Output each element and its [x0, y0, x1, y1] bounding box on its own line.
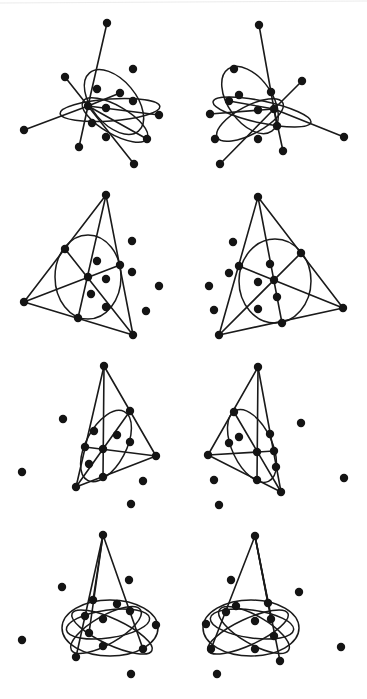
point-node [215, 331, 223, 339]
point-node [227, 576, 235, 584]
point-node [278, 319, 286, 327]
point-node [139, 477, 147, 485]
point-node [340, 133, 348, 141]
point-node [229, 238, 237, 246]
point-node [126, 407, 134, 415]
edge-line [274, 81, 302, 109]
point-node [102, 275, 110, 283]
point-node [216, 160, 224, 168]
point-node [87, 290, 95, 298]
point-node [100, 362, 108, 370]
point-node [270, 105, 278, 113]
point-node [142, 307, 150, 315]
point-node [251, 617, 259, 625]
point-node [81, 443, 89, 451]
panel-row3-left [18, 362, 160, 508]
point-node [155, 111, 163, 119]
point-node [340, 474, 348, 482]
point-node [279, 147, 287, 155]
point-node [99, 642, 107, 650]
point-node [210, 306, 218, 314]
point-node [102, 191, 110, 199]
point-node [232, 602, 240, 610]
point-node [61, 245, 69, 253]
panel-row2-left [20, 191, 163, 339]
point-node [155, 282, 163, 290]
panel-row1-right [206, 21, 348, 168]
edge-line [274, 109, 344, 137]
point-node [298, 77, 306, 85]
point-node [339, 304, 347, 312]
point-node [125, 576, 133, 584]
point-node [58, 583, 66, 591]
point-node [254, 135, 262, 143]
edge-line [88, 106, 147, 139]
point-node [273, 122, 281, 130]
point-node [127, 670, 135, 678]
point-node [202, 620, 210, 628]
point-node [102, 133, 110, 141]
point-node [267, 615, 275, 623]
edge-line [88, 23, 107, 106]
point-node [20, 126, 28, 134]
point-node [297, 419, 305, 427]
point-node [267, 88, 275, 96]
panel-row4-right [202, 532, 345, 678]
point-node [225, 439, 233, 447]
cut-off-caption [0, 0, 367, 2]
point-node [129, 65, 137, 73]
point-node [128, 237, 136, 245]
point-node [273, 293, 281, 301]
point-node [18, 468, 26, 476]
point-node [272, 463, 280, 471]
edge-line [24, 106, 88, 130]
edge-line [85, 447, 156, 456]
point-node [152, 621, 160, 629]
point-node [254, 193, 262, 201]
point-node [204, 451, 212, 459]
point-node [152, 452, 160, 460]
point-node [20, 298, 28, 306]
point-node [18, 636, 26, 644]
point-node [113, 431, 121, 439]
point-node [61, 73, 69, 81]
point-node [74, 314, 82, 322]
point-node [206, 110, 214, 118]
point-node [59, 415, 67, 423]
point-node [102, 303, 110, 311]
point-node [251, 645, 259, 653]
point-node [72, 483, 80, 491]
point-node [207, 645, 215, 653]
edge-line [88, 106, 159, 115]
point-node [266, 430, 274, 438]
point-node [222, 608, 230, 616]
point-node [264, 599, 272, 607]
point-node [211, 135, 219, 143]
point-node [127, 500, 135, 508]
panel-row1-left [20, 19, 163, 168]
ellipse-curve [59, 96, 160, 125]
edge-line [259, 25, 274, 109]
point-node [255, 21, 263, 29]
point-node [89, 596, 97, 604]
point-node [129, 97, 137, 105]
point-node [270, 632, 278, 640]
point-node [295, 588, 303, 596]
point-node [130, 160, 138, 168]
point-node [297, 249, 305, 257]
point-node [235, 433, 243, 441]
point-node [205, 282, 213, 290]
point-node [75, 143, 83, 151]
panel-row2-right [205, 193, 347, 339]
point-node [235, 91, 243, 99]
point-node [225, 97, 233, 105]
panel-row3-right [204, 363, 348, 509]
point-node [103, 19, 111, 27]
point-node [93, 257, 101, 265]
point-node [254, 363, 262, 371]
point-node [254, 106, 262, 114]
point-node [113, 600, 121, 608]
point-node [210, 476, 218, 484]
point-node [253, 448, 261, 456]
edge-line [76, 366, 104, 487]
